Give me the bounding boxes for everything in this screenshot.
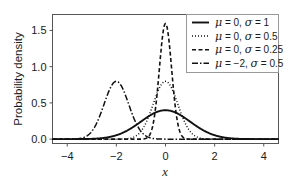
x-axis-title: x bbox=[161, 165, 168, 179]
y-axis-title: Probability density bbox=[12, 32, 24, 126]
y-tick-label: 0.5 bbox=[31, 97, 46, 109]
legend-label-0: μ = 0, σ = 1 bbox=[215, 16, 270, 29]
y-tick-label: 1.5 bbox=[31, 24, 46, 36]
gaussian-pdf-plot: 0.00.51.01.5 −4−2024 Probability density… bbox=[0, 0, 295, 188]
x-tick-label: 0 bbox=[162, 150, 168, 162]
y-tick-label: 1.0 bbox=[31, 61, 46, 73]
legend-label-1: μ = 0, σ = 0.5 bbox=[215, 30, 278, 43]
x-tick-label: 2 bbox=[212, 150, 218, 162]
x-tick-label: −2 bbox=[110, 150, 123, 162]
legend: μ = 0, σ = 1μ = 0, σ = 0.5μ = 0, σ = 0.2… bbox=[187, 15, 284, 73]
x-tick-label: 4 bbox=[261, 150, 267, 162]
x-tick-label: −4 bbox=[61, 150, 74, 162]
y-tick-label: 0.0 bbox=[31, 133, 46, 145]
legend-label-2: μ = 0, σ = 0.25 bbox=[215, 43, 283, 56]
chart-figure: 0.00.51.01.5 −4−2024 Probability density… bbox=[0, 0, 295, 188]
legend-label-3: μ = −2, σ = 0.5 bbox=[215, 57, 284, 70]
